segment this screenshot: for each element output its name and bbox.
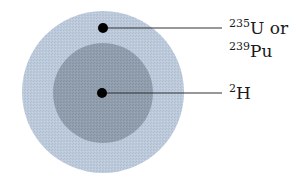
uranium-mass-number: 235 [229, 17, 250, 30]
shell-label-line1: 235U or [229, 18, 288, 41]
uranium-symbol: U or [250, 18, 288, 38]
core-label: 2H [229, 83, 251, 106]
core-marker-dot [97, 88, 107, 98]
plutonium-symbol: Pu [250, 41, 272, 61]
fission-fusion-diagram: 235U or 239Pu 2H [0, 0, 296, 189]
shell-label: 235U or 239Pu [229, 18, 288, 64]
deuterium-symbol: H [236, 83, 251, 103]
deuterium-mass-number: 2 [229, 82, 236, 95]
shell-label-line2: 239Pu [229, 41, 288, 64]
plutonium-mass-number: 239 [229, 40, 250, 53]
shell-marker-dot [98, 23, 108, 33]
